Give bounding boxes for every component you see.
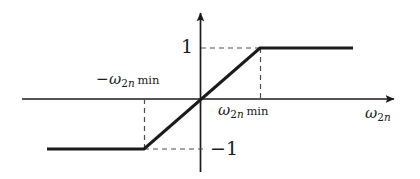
saturation-characteristic-figure: 1 −1 −ω2nmin ω2nmin ω2n	[0, 0, 420, 179]
x-axis-tick-label-omega-2n-min: ω2nmin	[218, 103, 268, 119]
subscript-2: 2	[377, 111, 384, 123]
x-axis-tick-label-negative-omega-2n-min: −ω2nmin	[96, 72, 159, 88]
omega-symbol: ω	[109, 70, 121, 88]
min-qualifier: min	[246, 104, 268, 118]
omega-symbol: ω	[218, 101, 230, 119]
y-axis-tick-label-one: 1	[181, 37, 193, 56]
subscript-2: 2	[230, 108, 237, 120]
omega-symbol: ω	[365, 104, 377, 122]
x-axis-variable-label: ω2n	[365, 106, 391, 122]
y-axis-tick-label-negative-one: −1	[210, 139, 238, 158]
subscript-n: n	[237, 108, 244, 120]
subscript-n: n	[384, 111, 391, 123]
min-qualifier: min	[137, 73, 159, 87]
subscript-n: n	[128, 77, 135, 89]
minus-sign: −	[96, 70, 109, 88]
